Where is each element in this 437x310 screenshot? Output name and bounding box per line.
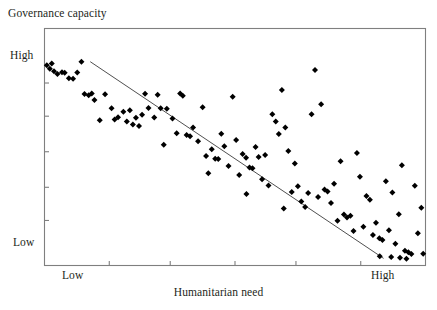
y-axis-title: Governance capacity bbox=[8, 8, 107, 20]
x-tick-label-high: High bbox=[371, 270, 394, 282]
plot-background bbox=[0, 0, 437, 310]
scatter-plot-canvas bbox=[0, 0, 437, 310]
x-axis-title: Humanitarian need bbox=[0, 287, 437, 299]
y-tick-label-low: Low bbox=[13, 237, 34, 249]
x-tick-label-low: Low bbox=[62, 270, 83, 282]
figure-container: Governance capacity Humanitarian need Hi… bbox=[0, 0, 437, 310]
y-tick-label-high: High bbox=[10, 50, 33, 62]
